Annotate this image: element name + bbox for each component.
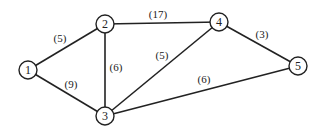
edge-1-2 bbox=[28, 24, 105, 70]
edge-weight-4-5: (3) bbox=[256, 28, 269, 41]
node-label: 2 bbox=[102, 17, 108, 31]
node-3: 3 bbox=[96, 107, 114, 125]
edge-weight-3-4: (5) bbox=[156, 49, 169, 62]
edge-2-4 bbox=[105, 22, 219, 24]
graph-diagram: (5)(9)(6)(17)(5)(3)(6)12345 bbox=[0, 0, 324, 132]
node-label: 4 bbox=[216, 15, 222, 29]
node-4: 4 bbox=[210, 13, 228, 31]
node-label: 3 bbox=[102, 109, 108, 123]
edge-1-3 bbox=[28, 70, 105, 116]
edge-weight-2-3: (6) bbox=[110, 61, 123, 74]
node-1: 1 bbox=[19, 61, 37, 79]
edge-weight-1-2: (5) bbox=[54, 32, 67, 45]
node-5: 5 bbox=[289, 57, 307, 75]
node-2: 2 bbox=[96, 15, 114, 33]
edge-weight-1-3: (9) bbox=[65, 78, 78, 91]
edge-weight-2-4: (17) bbox=[149, 8, 168, 21]
node-label: 5 bbox=[295, 59, 301, 73]
node-label: 1 bbox=[25, 63, 31, 77]
edge-weight-3-5: (6) bbox=[198, 73, 211, 86]
